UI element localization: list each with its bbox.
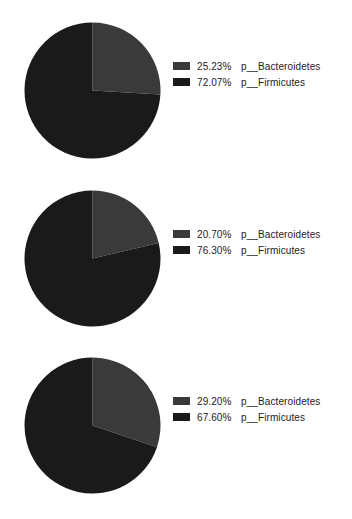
legend-item: 29.20% p__Bacteroidetes bbox=[173, 394, 352, 408]
pie-slices-1 bbox=[24, 23, 160, 159]
legend-2: 20.70% p__Bacteroidetes 76.30% p__Firmic… bbox=[173, 227, 352, 259]
legend-swatch-firmicutes bbox=[173, 246, 190, 254]
chart-panel-2: 20.70% p__Bacteroidetes 76.30% p__Firmic… bbox=[0, 172, 352, 345]
legend-3: 29.20% p__Bacteroidetes 67.60% p__Firmic… bbox=[173, 394, 352, 426]
legend-swatch-bacteroidetes bbox=[173, 62, 190, 70]
legend-swatch-bacteroidetes bbox=[173, 397, 190, 405]
legend-taxon-label: p__Bacteroidetes bbox=[241, 61, 320, 72]
chart-panel-1: 25.23% p__Bacteroidetes 72.07% p__Firmic… bbox=[0, 4, 352, 177]
pie-chart-figure: 25.23% p__Bacteroidetes 72.07% p__Firmic… bbox=[0, 0, 352, 519]
legend-taxon-label: p__Bacteroidetes bbox=[241, 396, 320, 407]
pie-slices-2 bbox=[24, 191, 160, 327]
legend-percent: 25.23% bbox=[197, 61, 235, 72]
pie-chart-2 bbox=[24, 190, 161, 327]
pie-chart-1 bbox=[24, 22, 161, 159]
legend-percent: 72.07% bbox=[197, 77, 235, 88]
legend-item: 76.30% p__Firmicutes bbox=[173, 243, 352, 257]
legend-taxon-label: p__Bacteroidetes bbox=[241, 229, 320, 240]
pie-svg-3 bbox=[24, 357, 161, 494]
legend-percent: 76.30% bbox=[197, 245, 235, 256]
legend-swatch-firmicutes bbox=[173, 413, 190, 421]
chart-panel-3: 29.20% p__Bacteroidetes 67.60% p__Firmic… bbox=[0, 339, 352, 512]
pie-slices-3 bbox=[25, 358, 161, 494]
pie-svg-2 bbox=[24, 190, 161, 327]
legend-item: 25.23% p__Bacteroidetes bbox=[173, 59, 352, 73]
legend-percent: 29.20% bbox=[197, 396, 235, 407]
legend-percent: 67.60% bbox=[197, 412, 235, 423]
legend-taxon-label: p__Firmicutes bbox=[241, 77, 305, 88]
pie-svg-1 bbox=[24, 22, 161, 159]
legend-swatch-bacteroidetes bbox=[173, 230, 190, 238]
legend-1: 25.23% p__Bacteroidetes 72.07% p__Firmic… bbox=[173, 59, 352, 91]
legend-item: 67.60% p__Firmicutes bbox=[173, 410, 352, 424]
legend-swatch-firmicutes bbox=[173, 78, 190, 86]
legend-percent: 20.70% bbox=[197, 229, 235, 240]
legend-item: 72.07% p__Firmicutes bbox=[173, 75, 352, 89]
legend-taxon-label: p__Firmicutes bbox=[241, 412, 305, 423]
legend-taxon-label: p__Firmicutes bbox=[241, 245, 305, 256]
pie-slice bbox=[93, 23, 161, 95]
pie-chart-3 bbox=[24, 357, 161, 494]
legend-item: 20.70% p__Bacteroidetes bbox=[173, 227, 352, 241]
